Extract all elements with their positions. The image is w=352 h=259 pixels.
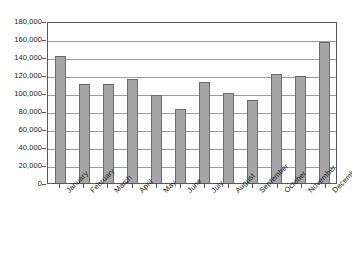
- bar: [175, 109, 186, 183]
- y-axis-tick-marks: [0, 22, 47, 184]
- bar: [295, 76, 306, 183]
- y-axis-tick-mark: [42, 166, 46, 167]
- bar: [199, 82, 210, 183]
- y-axis-tick-mark: [42, 40, 46, 41]
- y-axis-tick-mark: [42, 130, 46, 131]
- bar: [79, 84, 90, 183]
- x-axis-tick-mark: [156, 184, 157, 188]
- plot-area: [47, 22, 337, 184]
- bar: [127, 79, 138, 183]
- x-axis-tick-labels: JanuaryFebruaryMarchAprilMayJuneJulyAugu…: [47, 189, 337, 257]
- x-axis-tick-label: December: [331, 189, 336, 194]
- y-axis-tick-mark: [42, 184, 46, 185]
- x-axis-tick-mark: [83, 184, 84, 188]
- x-axis-tick-mark: [132, 184, 133, 188]
- y-axis-tick-mark: [42, 148, 46, 149]
- x-axis-tick-label: June: [186, 189, 191, 194]
- y-axis-tick-mark: [42, 22, 46, 23]
- y-axis-tick-mark: [42, 94, 46, 95]
- y-axis-tick-mark: [42, 58, 46, 59]
- bar: [247, 100, 258, 183]
- bar: [319, 42, 330, 183]
- x-axis-tick-mark: [301, 184, 302, 188]
- x-axis-tick-mark: [59, 184, 60, 188]
- bar-series: [48, 23, 336, 183]
- x-axis-tick-mark: [204, 184, 205, 188]
- x-axis-tick-label: February: [89, 189, 94, 194]
- y-axis-tick-mark: [42, 112, 46, 113]
- x-axis-tick-mark: [228, 184, 229, 188]
- x-axis-tick-mark: [325, 184, 326, 188]
- bar-chart: 020,00040,00060,00080,000100,000120,0001…: [0, 0, 352, 259]
- y-axis-tick-mark: [42, 76, 46, 77]
- x-axis-tick-label: January: [65, 189, 70, 194]
- x-axis-tick-label: May: [162, 189, 167, 194]
- x-axis-tick-mark: [107, 184, 108, 188]
- x-axis-tick-label: July: [210, 189, 215, 194]
- x-axis-tick-mark: [252, 184, 253, 188]
- x-axis-tick-label: September: [258, 189, 263, 194]
- x-axis-tick-label: August: [234, 189, 239, 194]
- x-axis-tick-label: November: [307, 189, 312, 194]
- bar: [223, 93, 234, 183]
- x-axis-tick-mark: [277, 184, 278, 188]
- x-axis-tick-label: March: [113, 189, 118, 194]
- x-axis-tick-label: October: [283, 189, 288, 194]
- x-axis-tick-label: April: [138, 189, 143, 194]
- bar: [55, 56, 66, 183]
- x-axis-tick-mark: [180, 184, 181, 188]
- bar: [151, 95, 162, 183]
